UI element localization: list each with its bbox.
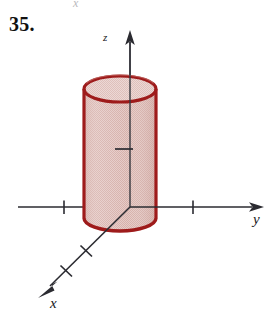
coordinate-system-diagram [0,0,267,320]
figure-container: x 35. [0,0,267,320]
y-axis-label: y [253,212,260,227]
x-axis-label: x [50,296,57,311]
cylinder-body-shading [84,89,156,231]
z-axis-label: z [103,32,107,43]
